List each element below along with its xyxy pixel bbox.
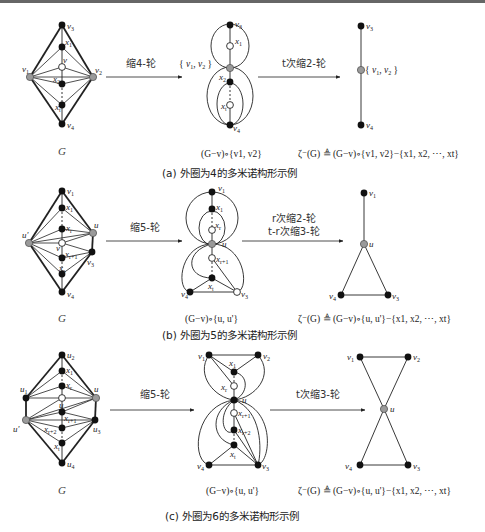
panel-c-graph-label: G <box>58 484 66 496</box>
svg-text:v1: v1 <box>198 351 205 362</box>
panel-a-caption: (a) 外圈为4的多米诺构形示例 <box>162 167 297 179</box>
svg-text:v4: v4 <box>329 291 336 302</box>
svg-text:v3: v3 <box>366 21 373 32</box>
panel-b-arrow-1-label: 缩5-轮 <box>130 221 160 233</box>
svg-text:u: u <box>59 400 64 410</box>
svg-text:xt: xt <box>207 281 214 292</box>
panel-b-arrow-2-label-line1: r次缩2-轮 <box>272 212 316 224</box>
panel-b-caption: (b) 外圈为5的多米诺构形示例 <box>162 329 297 341</box>
panel-a-merged-label: { v1, v2 } <box>179 59 212 70</box>
svg-text:v1: v1 <box>369 188 376 199</box>
svg-text:v4: v4 <box>67 289 74 300</box>
svg-text:{ v1, v2 }: { v1, v2 } <box>365 65 398 76</box>
svg-text:v: v <box>63 55 67 65</box>
svg-text:v2: v2 <box>263 351 270 362</box>
svg-text:v3: v3 <box>67 21 74 32</box>
svg-text:u1: u1 <box>20 384 28 395</box>
panel-b-middle-vertices <box>187 189 241 296</box>
panel-b-arrow-2-label-line2: t-r次缩3-轮 <box>268 225 320 237</box>
svg-text:x1: x1 <box>228 358 236 369</box>
svg-text:u': u' <box>22 230 30 240</box>
svg-text:v4: v4 <box>366 120 373 131</box>
svg-text:v3: v3 <box>262 461 269 472</box>
svg-text:u: u <box>390 404 395 414</box>
panel-c-arrow-2-label: t次缩3-轮 <box>296 388 340 400</box>
svg-text:u: u <box>94 384 99 394</box>
panel-b-middle-formula: (G−v)∘{u, u'} <box>185 314 238 325</box>
svg-text:v4: v4 <box>233 123 240 134</box>
svg-text:v3: v3 <box>87 257 94 268</box>
svg-text:v3: v3 <box>392 291 399 302</box>
panel-a-graph-label: G <box>58 145 66 157</box>
panel-c-right-graph: v1 v2 u v4 v3 <box>345 352 420 472</box>
panel-c-right-formula: ζ⁻(G) ≜ (G−v)∘{u, u'}−{x1, x2, ⋯, xt} <box>298 485 451 497</box>
svg-text:v1: v1 <box>22 64 29 75</box>
svg-text:x1: x1 <box>215 202 223 213</box>
svg-text:xr: xr <box>65 380 72 391</box>
panel-a-right-formula: ζ⁻(G) ≜ (G−v)∘{v1, v2}−{x1, x2, ⋯, xt} <box>298 148 459 160</box>
svg-text:u4: u4 <box>67 459 75 470</box>
panel-c-arrow-1-label: 缩5-轮 <box>140 388 170 400</box>
svg-text:u2: u2 <box>67 350 75 361</box>
svg-text:v1: v1 <box>218 183 225 194</box>
panel-a-arrow-1-label: 缩4-轮 <box>126 57 156 69</box>
svg-text:v2: v2 <box>95 65 102 76</box>
svg-text:u: u <box>222 239 227 249</box>
svg-text:xs: xs <box>58 263 66 274</box>
svg-text:v4: v4 <box>197 461 204 472</box>
svg-text:x2: x2 <box>52 74 60 85</box>
svg-text:x1: x1 <box>234 36 242 47</box>
panel-c-caption: (c) 外圈为6的多米诺构形示例 <box>165 510 299 522</box>
svg-text:v3: v3 <box>413 461 420 472</box>
svg-text:xr+1: xr+1 <box>64 249 77 260</box>
svg-text:v3: v3 <box>235 19 242 30</box>
panel-a-right-graph: v3 { v1, v2 } v4 <box>357 21 398 131</box>
panel-c: u2 x1 xr u xr+1 xr+2 xt u4 u1 u u' u3 G … <box>13 350 451 522</box>
svg-text:v2: v2 <box>413 352 420 363</box>
svg-text:xr+2: xr+2 <box>237 425 250 436</box>
domino-configuration-figure: v3 x1 v x2 xt v4 v1 v2 G 缩4-轮 <box>0 0 485 532</box>
panel-c-middle-formula: (G−v)∘{u, u'} <box>206 486 259 497</box>
svg-text:v1: v1 <box>347 352 354 363</box>
svg-text:xr: xr <box>65 223 72 234</box>
svg-text:xr+1: xr+1 <box>215 254 228 265</box>
svg-text:v3: v3 <box>241 289 248 300</box>
svg-text:v: v <box>56 243 60 253</box>
svg-text:v4: v4 <box>345 461 352 472</box>
svg-text:xt: xt <box>220 101 227 112</box>
panel-a-middle-labels: v3 x1 x2 xt v4 { v1, v2 } <box>179 19 242 134</box>
svg-text:x2: x2 <box>218 72 226 83</box>
panel-b-right-graph: v1 u v4 v3 <box>329 188 399 302</box>
panel-b-right-formula: ζ⁻(G) ≜ (G−v)∘{u, u'}−{x1, x2, ⋯, xt} <box>298 313 451 325</box>
svg-text:v1: v1 <box>67 186 74 197</box>
svg-text:u3: u3 <box>93 424 101 435</box>
panel-b-graph-label: G <box>58 312 66 324</box>
svg-text:xt: xt <box>229 449 236 460</box>
panel-a: v3 x1 v x2 xt v4 v1 v2 G 缩4-轮 <box>22 19 459 179</box>
svg-text:xr: xr <box>214 220 221 231</box>
panel-a-graph-G <box>30 25 93 124</box>
svg-text:xr: xr <box>220 382 227 393</box>
panel-a-arrow-2-label: t次缩2-轮 <box>282 57 326 69</box>
panel-b: v1 x1 xr v xr+1 xs v4 u' u v3 G 缩5-轮 <box>22 183 451 341</box>
svg-text:u': u' <box>13 424 21 434</box>
svg-text:u: u <box>94 220 99 230</box>
svg-text:v4: v4 <box>67 120 74 131</box>
panel-a-middle-graph <box>207 24 253 125</box>
panel-a-middle-formula: (G−v)∘{v1, v2} <box>201 149 262 160</box>
svg-text:u: u <box>369 239 374 249</box>
svg-text:u: u <box>242 395 247 405</box>
